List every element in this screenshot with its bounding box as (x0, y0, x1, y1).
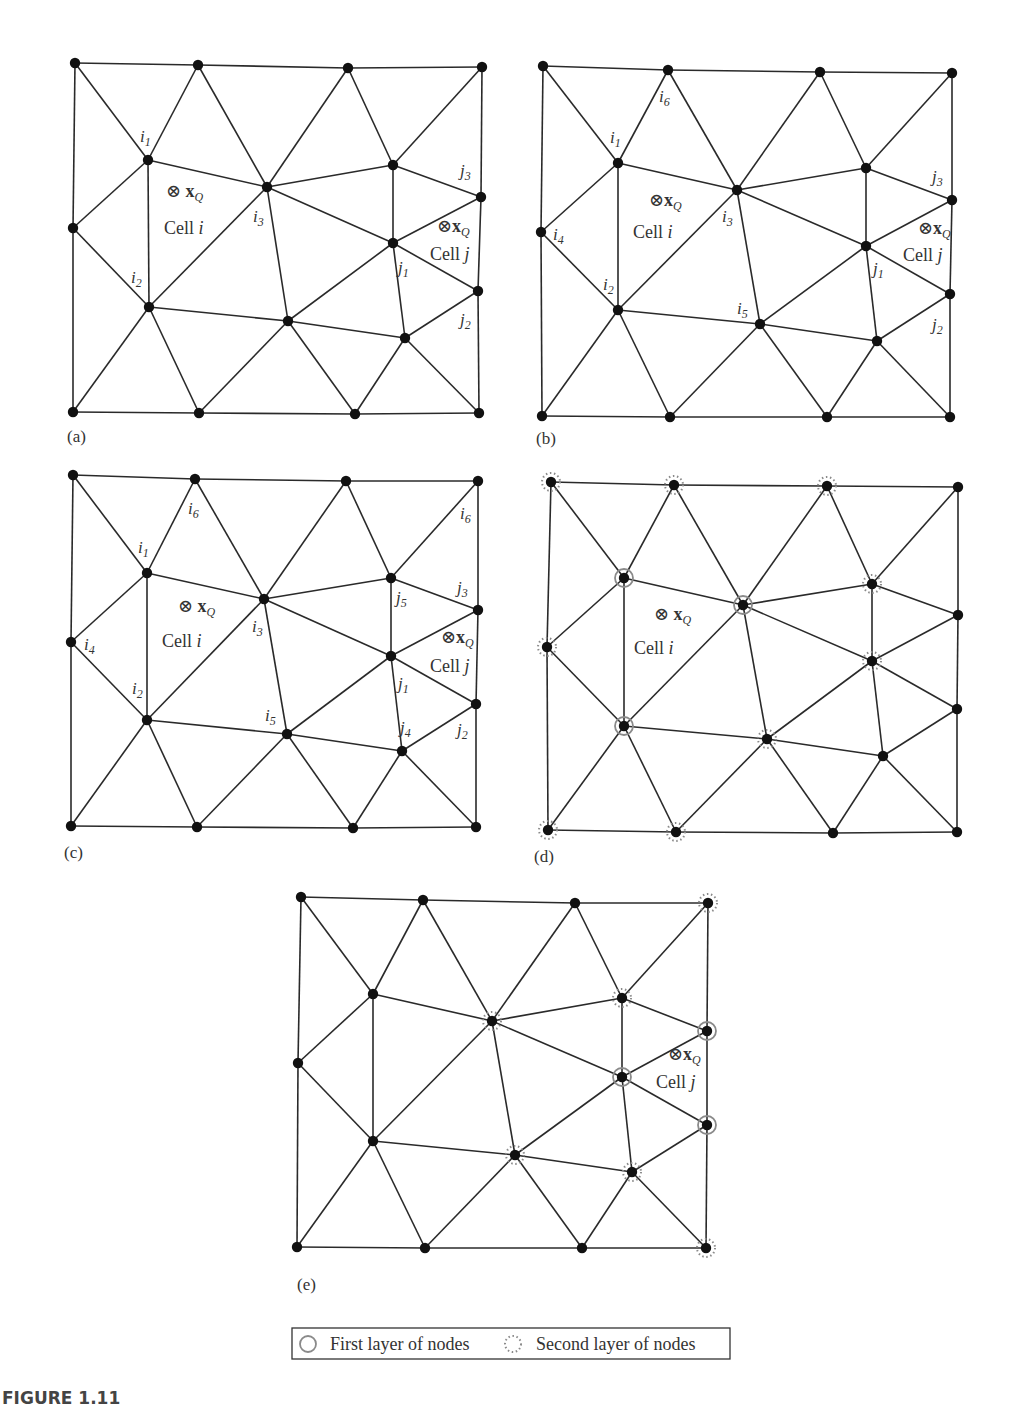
mesh-edge (676, 739, 767, 832)
mesh-edges (547, 482, 958, 833)
mesh-edge (820, 72, 866, 168)
mesh-node (701, 1243, 711, 1253)
mesh-node (143, 155, 153, 165)
mesh-edge (543, 66, 618, 163)
mesh-edge (476, 610, 478, 704)
mesh-edge (541, 232, 542, 416)
mesh-edge (71, 826, 197, 827)
cell-label: Cell i (162, 631, 202, 651)
cell-label: Cell i (633, 222, 673, 242)
node-label: i6 (659, 87, 670, 109)
mesh-edge (71, 720, 147, 826)
mesh-edge (198, 65, 348, 68)
node-label: j1 (396, 258, 409, 280)
mesh-edge (872, 661, 957, 709)
mesh-node (755, 319, 765, 329)
mesh-edge (71, 475, 73, 642)
mesh-node (341, 476, 351, 486)
mesh-edge (541, 163, 618, 232)
mesh-edge (676, 832, 833, 833)
mesh-edge (547, 647, 624, 726)
node-label: i3 (252, 617, 263, 639)
mesh-edge (547, 578, 624, 647)
mesh-edge (575, 903, 622, 998)
mesh-nodes (68, 58, 487, 419)
mesh-edge (298, 897, 301, 1063)
otimes-icon: ⊗ (668, 1044, 683, 1064)
mesh-edge (267, 165, 393, 187)
mesh-edge (767, 739, 883, 756)
mesh-edge (622, 1077, 632, 1172)
node-label: j2 (455, 720, 468, 742)
mesh-node (193, 60, 203, 70)
mesh-node (828, 828, 838, 838)
cell-label: Cell j (903, 245, 943, 265)
mesh-edge (624, 726, 767, 739)
mesh-node (190, 474, 200, 484)
mesh-node (702, 1026, 712, 1036)
query-point-label: ⊗xQ (668, 1044, 701, 1067)
node-label: j2 (930, 315, 943, 337)
mesh-node (669, 480, 679, 490)
mesh-node (822, 481, 832, 491)
mesh-edge (373, 994, 492, 1021)
mesh-node (386, 573, 396, 583)
mesh-node (762, 734, 772, 744)
otimes-icon: ⊗ (649, 190, 664, 210)
mesh-edge (827, 486, 872, 584)
mesh-node (477, 62, 487, 72)
mesh-edge (632, 1125, 707, 1172)
mesh-edge (957, 615, 958, 709)
mesh-edge (833, 832, 957, 833)
panel-label-b: (b) (536, 429, 556, 448)
mesh-edge (827, 486, 958, 487)
mesh-node (537, 411, 547, 421)
mesh-edge (670, 324, 760, 417)
mesh-node (192, 822, 202, 832)
mesh-edge (743, 605, 767, 739)
mesh-edge (743, 605, 872, 661)
mesh-edge (267, 68, 348, 187)
mesh-edge (353, 751, 402, 828)
mesh-edge (478, 197, 481, 291)
mesh-edge (287, 734, 353, 828)
query-point-label: ⊗ xQ (654, 604, 692, 627)
mesh-edge (872, 487, 958, 584)
otimes-icon: ⊗ (166, 181, 186, 201)
mesh-node (861, 241, 871, 251)
panels-group: i1i3i2j3j1j2⊗ xQ⊗xQCell iCell j(a)i6i1i3… (64, 58, 963, 1294)
mesh-figure: i1i3i2j3j1j2⊗ xQ⊗xQCell iCell j(a)i6i1i3… (0, 0, 1012, 1412)
mesh-node (543, 825, 553, 835)
mesh-node (144, 302, 154, 312)
node-label: j3 (458, 161, 471, 183)
mesh-edge (297, 1141, 373, 1247)
mesh-node (473, 286, 483, 296)
mesh-edge (373, 1141, 515, 1155)
mesh-edge (760, 324, 877, 341)
mesh-node (665, 412, 675, 422)
mesh-edge (355, 338, 405, 414)
cell-label: Cell j (430, 656, 470, 676)
mesh-edge (668, 70, 820, 72)
mesh-node (867, 579, 877, 589)
query-point-label: ⊗xQ (441, 627, 474, 650)
mesh-edge (264, 578, 391, 599)
panel-e: ⊗xQCell j(e) (292, 892, 717, 1294)
mesh-edge (71, 573, 147, 642)
mesh-node (627, 1167, 637, 1177)
panel-c: i6i1i3i4i2i5i6j5j3j1j4j2⊗ xQ⊗xQCell iCel… (64, 470, 483, 862)
node-label: i5 (265, 706, 276, 728)
mesh-edge (147, 720, 197, 827)
mesh-node (282, 729, 292, 739)
mesh-edge (492, 998, 622, 1021)
mesh-edge (348, 67, 482, 68)
mesh-edge (737, 190, 866, 246)
mesh-edge (624, 726, 676, 832)
mesh-node (350, 409, 360, 419)
mesh-node (283, 316, 293, 326)
mesh-edge (373, 1021, 492, 1141)
mesh-edge (348, 68, 393, 165)
mesh-edge (542, 310, 618, 416)
mesh-edge (197, 827, 353, 828)
mesh-node (343, 63, 353, 73)
